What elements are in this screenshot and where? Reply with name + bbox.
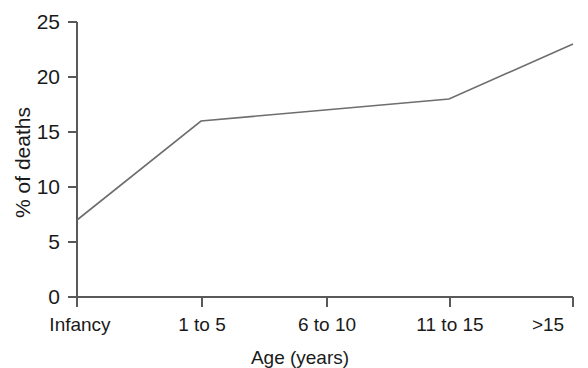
chart-canvas (0, 0, 588, 368)
y-tick-label-20: 20 (8, 66, 60, 87)
x-tick-label-6-to-10: 6 to 10 (267, 315, 387, 334)
data-line-percent-of-deaths (77, 44, 573, 220)
x-tick-marks (77, 297, 573, 307)
x-tick-label-1-to-5: 1 to 5 (142, 315, 262, 334)
x-axis-title: Age (years) (180, 347, 420, 368)
line-chart: 25 20 15 10 5 0 Infancy 1 to 5 6 to 10 1… (0, 0, 588, 368)
x-tick-label-over-15: >15 (516, 315, 580, 334)
x-tick-label-infancy: Infancy (20, 315, 140, 334)
y-tick-label-25: 25 (8, 11, 60, 32)
x-tick-label-11-to-15: 11 to 15 (390, 315, 510, 334)
y-axis-title: % of deaths (12, 103, 33, 223)
y-tick-label-0: 0 (8, 286, 60, 307)
y-tick-marks (68, 22, 77, 297)
y-tick-label-5: 5 (8, 231, 60, 252)
